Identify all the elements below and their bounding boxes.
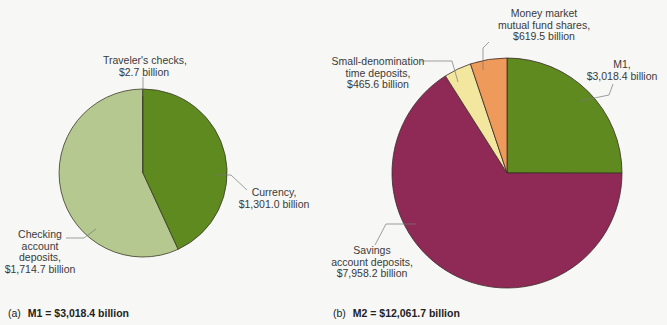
label-currency: Currency, $1,301.0 billion bbox=[238, 187, 310, 210]
label-value: $619.5 billion bbox=[494, 31, 594, 43]
label-line: Traveler's checks, bbox=[103, 55, 185, 67]
pie-chart-m1 bbox=[59, 89, 227, 257]
label-line: Savings bbox=[330, 245, 414, 257]
label-m1: M1, $3,018.4 billion bbox=[582, 59, 662, 82]
label-checking-deposits: Checking account deposits, $1,714.7 bill… bbox=[4, 229, 76, 275]
caption-text: M1 = $3,018.4 billion bbox=[28, 307, 129, 319]
label-value: $7,958.2 billion bbox=[330, 268, 414, 280]
label-value: $2.7 billion bbox=[103, 67, 185, 79]
caption-m1: (a) M1 = $3,018.4 billion bbox=[8, 307, 129, 319]
label-value: $465.6 billion bbox=[330, 79, 426, 91]
label-line: Money market bbox=[494, 8, 594, 20]
label-small-denomination: Small-denomination time deposits, $465.6… bbox=[330, 56, 426, 91]
caption-tag: (b) bbox=[333, 307, 346, 319]
label-savings-deposits: Savings account deposits, $7,958.2 billi… bbox=[330, 245, 414, 280]
caption-tag: (a) bbox=[8, 307, 21, 319]
caption-text: M2 = $12,061.7 billion bbox=[353, 307, 460, 319]
label-value: $1,301.0 billion bbox=[238, 199, 310, 211]
label-line: M1, bbox=[582, 59, 662, 71]
caption-m2: (b) M2 = $12,061.7 billion bbox=[333, 307, 460, 319]
label-line: Small-denomination bbox=[330, 56, 426, 68]
label-value: $3,018.4 billion bbox=[582, 71, 662, 83]
label-line: Checking bbox=[4, 229, 76, 241]
label-line: Currency, bbox=[238, 187, 310, 199]
label-value: $1,714.7 billion bbox=[4, 264, 76, 276]
label-money-market: Money market mutual fund shares, $619.5 … bbox=[494, 8, 594, 43]
label-line: deposits, bbox=[4, 252, 76, 264]
pie-chart-m2 bbox=[392, 58, 622, 288]
label-travelers-checks: Traveler's checks, $2.7 billion bbox=[103, 55, 185, 78]
